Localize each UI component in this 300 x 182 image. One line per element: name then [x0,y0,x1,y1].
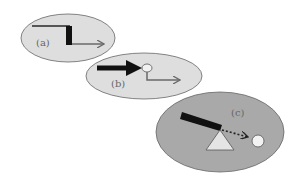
panel-b-label: (b) [111,78,125,89]
diagram-canvas: (a) (b) (c) [0,0,300,182]
panel-c-label: (c) [231,107,245,118]
panel-b: (b) [86,53,202,99]
panel-c: (c) [156,92,284,172]
step-drop-bar [66,26,72,45]
panel-a: (a) [21,14,115,62]
target-circle [252,135,264,147]
panel-b-ellipse [86,53,202,99]
small-circle [142,64,152,72]
panel-a-label: (a) [36,37,50,48]
